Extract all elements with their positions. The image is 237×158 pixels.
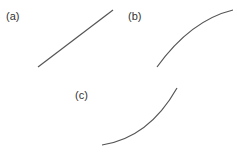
panel-c-curve (102, 88, 177, 145)
curves-diagram (0, 0, 237, 158)
panel-b-curve (157, 10, 233, 67)
panel-a-line (38, 10, 113, 67)
